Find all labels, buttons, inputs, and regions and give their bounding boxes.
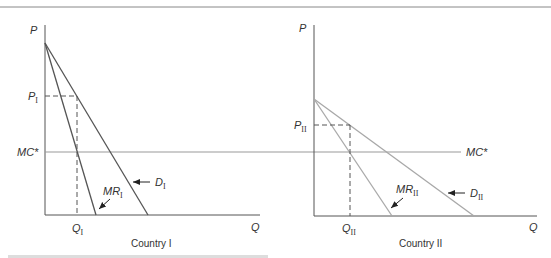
q-axis-label-1: Q bbox=[251, 221, 260, 233]
mr-curve-country2 bbox=[314, 99, 392, 216]
q1-label: QI bbox=[72, 222, 84, 237]
demand-curve-country1 bbox=[45, 43, 148, 215]
mc-label-left: MC* bbox=[17, 146, 39, 158]
mr1-arrow-icon bbox=[99, 199, 110, 209]
mc-label-right: MC* bbox=[466, 146, 488, 158]
d1-label: DI bbox=[155, 176, 166, 191]
p-axis-label-2: P bbox=[299, 22, 307, 34]
mr-curve-country1 bbox=[45, 43, 96, 215]
chart-figure: P PI MC* QI Q Country I DI MRI P PII MC*… bbox=[0, 0, 551, 258]
mr2-arrow-icon bbox=[391, 198, 403, 208]
country2-label: Country II bbox=[399, 238, 442, 249]
q2-label: QII bbox=[342, 222, 356, 237]
p1-label: PI bbox=[28, 90, 38, 105]
mr2-label: MRII bbox=[396, 183, 419, 198]
demand-curve-country2 bbox=[314, 99, 474, 216]
p-axis-label-1: P bbox=[30, 24, 38, 36]
d2-label: DII bbox=[470, 187, 484, 202]
q-axis-label-2: Q bbox=[529, 221, 538, 233]
p2-label: PII bbox=[294, 119, 307, 134]
mr1-label: MRI bbox=[103, 185, 123, 200]
country1-label: Country I bbox=[131, 238, 172, 249]
